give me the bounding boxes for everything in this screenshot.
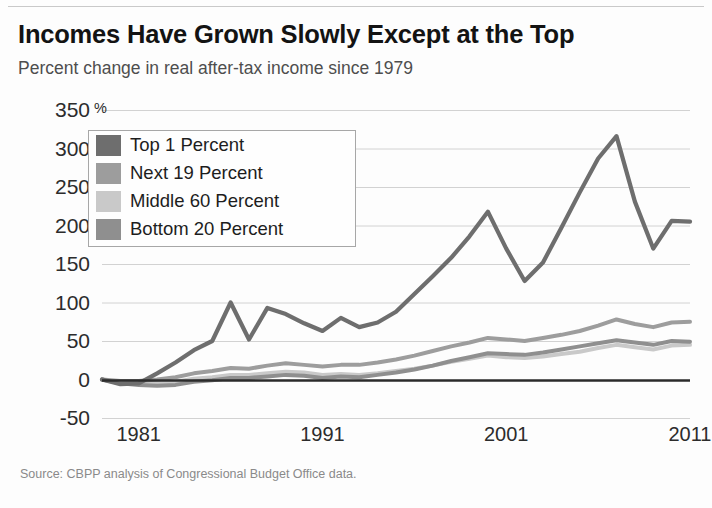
y-tick-label: 0 — [78, 368, 90, 391]
legend-swatch-next-19-percent — [96, 163, 121, 184]
line-chart-svg: 350%300250200150100500-50 19811991200120… — [0, 0, 712, 508]
legend-item-next-19-percent[interactable]: Next 19 Percent — [89, 159, 355, 187]
legend-label-middle-60-percent: Middle 60 Percent — [130, 192, 279, 211]
y-tick-label: 300 — [55, 137, 90, 160]
chart-figure: Incomes Have Grown Slowly Except at the … — [0, 0, 712, 508]
legend-label-bottom-20-percent: Bottom 20 Percent — [130, 220, 283, 239]
y-tick-label: 50 — [67, 329, 90, 352]
y-axis-unit-label: % — [94, 100, 107, 116]
legend-swatch-top-1-percent — [96, 135, 121, 156]
x-axis-ticks-group: 1981199120012011 — [117, 423, 712, 445]
y-tick-label: 350 — [55, 98, 90, 121]
legend-item-bottom-20-percent[interactable]: Bottom 20 Percent — [89, 215, 355, 243]
legend-item-top-1-percent[interactable]: Top 1 Percent — [89, 131, 355, 159]
y-tick-label: 250 — [55, 175, 90, 198]
x-tick-label: 2001 — [484, 423, 529, 445]
y-tick-label: 150 — [55, 252, 90, 275]
plot-area: 350%300250200150100500-50 19811991200120… — [0, 0, 712, 508]
source-note: Source: CBPP analysis of Congressional B… — [20, 467, 357, 481]
chart-legend: Top 1 Percent Next 19 Percent Middle 60 … — [88, 130, 356, 247]
legend-item-middle-60-percent[interactable]: Middle 60 Percent — [89, 187, 355, 215]
y-tick-label: -50 — [60, 406, 90, 429]
legend-swatch-middle-60-percent — [96, 191, 121, 212]
x-tick-label: 1991 — [300, 423, 345, 445]
y-tick-label: 200 — [55, 214, 90, 237]
x-tick-label: 1981 — [117, 423, 162, 445]
x-tick-label: 2011 — [668, 423, 711, 445]
legend-label-top-1-percent: Top 1 Percent — [130, 136, 244, 155]
y-tick-label: 100 — [55, 291, 90, 314]
legend-swatch-bottom-20-percent — [96, 219, 121, 240]
legend-label-next-19-percent: Next 19 Percent — [130, 164, 263, 183]
